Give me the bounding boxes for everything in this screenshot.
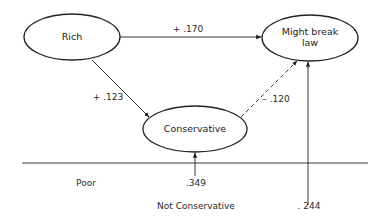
edge-rich-to-law-label: + .170 bbox=[173, 24, 204, 34]
node-rich-label: Rich bbox=[62, 31, 82, 42]
edge-conservative-to-law: – .120 bbox=[241, 61, 297, 117]
label-conservative-residual: .349 bbox=[186, 178, 206, 188]
edge-rich-to-conservative-label: + .123 bbox=[93, 92, 123, 102]
label-not-conservative: Not Conservative bbox=[157, 201, 235, 211]
label-law-residual: . 244 bbox=[298, 201, 321, 211]
edge-rich-to-conservative: + .123 bbox=[92, 60, 149, 117]
node-might-break-law-label-line1: Might break bbox=[282, 26, 339, 37]
node-conservative-label: Conservative bbox=[164, 123, 227, 134]
path-diagram: Rich Might break law Conservative + .170… bbox=[0, 0, 383, 223]
node-conservative: Conservative bbox=[143, 106, 247, 152]
edge-rich-to-law: + .170 bbox=[120, 24, 261, 37]
edge-conservative-to-law-label: – .120 bbox=[262, 94, 290, 104]
node-rich: Rich bbox=[24, 14, 120, 60]
arrow-icon bbox=[92, 60, 149, 117]
node-might-break-law: Might break law bbox=[262, 15, 358, 61]
dashed-arrow-icon bbox=[241, 61, 297, 117]
node-might-break-law-label-line2: law bbox=[302, 37, 318, 48]
label-poor: Poor bbox=[76, 178, 96, 188]
